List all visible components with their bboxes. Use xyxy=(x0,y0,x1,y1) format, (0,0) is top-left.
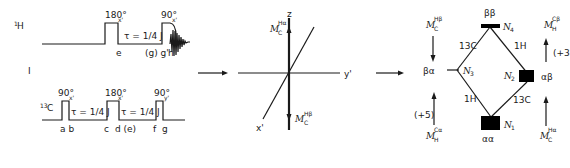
h-channel-label: H xyxy=(17,21,24,31)
svg-text:Hα: Hα xyxy=(278,19,287,26)
label-n4: N 4 xyxy=(502,22,514,33)
vector-diagram: z y' x' M C Hα M C Hβ xyxy=(238,9,352,133)
c-delay2: τ = 1/4 J xyxy=(121,107,160,117)
mag-top-right: M H Cβ (+3 xyxy=(543,15,570,62)
z-axis-label: z xyxy=(287,9,292,19)
state-ab: αβ xyxy=(541,72,553,82)
transition-label-13c-bottom: 13C xyxy=(513,95,531,105)
figure-label: I xyxy=(28,66,31,76)
svg-text:Hα: Hα xyxy=(548,126,557,133)
svg-text:(+3: (+3 xyxy=(553,48,570,58)
vector-up-label: M C Hα xyxy=(269,19,287,36)
h-pulse1-angle: 180° xyxy=(105,10,127,20)
c-pulse2-angle: 180° xyxy=(105,88,127,98)
level-n2 xyxy=(519,70,534,82)
svg-text:C: C xyxy=(434,25,438,32)
marker-g-gprime: (g) g' xyxy=(145,48,169,58)
h-delay: τ = 1/4 J xyxy=(124,31,163,41)
marker-a-b: a b xyxy=(60,124,74,134)
svg-text:C: C xyxy=(278,29,282,36)
marker-e: e xyxy=(116,48,122,58)
c-channel-label: C xyxy=(47,103,53,113)
svg-text:2: 2 xyxy=(511,75,515,82)
state-ba: βα xyxy=(423,66,435,76)
svg-text:Cβ: Cβ xyxy=(552,15,560,23)
marker-f: f xyxy=(153,124,157,134)
energy-diagram: ββ βα αβ αα N 4 N 3 N 2 N 1 13C 1H 1H 13… xyxy=(414,8,570,144)
arrow-sequence-to-vector xyxy=(198,71,228,76)
c-pulse3-phase: y' xyxy=(164,94,170,102)
c-channel: 13 C 90° x' 180° x' 90° y' τ = 1/4 J τ =… xyxy=(40,88,185,134)
svg-text:H: H xyxy=(552,25,557,32)
c-pulse1-phase: x' xyxy=(69,94,75,101)
svg-text:Cα: Cα xyxy=(434,126,442,133)
marker-d-e: d (e) xyxy=(115,124,136,134)
h-pulse2-phase: x' xyxy=(172,16,178,23)
transition-label-1h-bottom: 1H xyxy=(464,94,477,104)
transition-label-1h-top: 1H xyxy=(514,41,527,51)
transition-label-13c-top: 13C xyxy=(459,41,477,51)
mag-bottom-left: (+5) M H Cα xyxy=(414,92,442,143)
arrow-up-icon xyxy=(544,38,549,45)
level-n1 xyxy=(481,116,500,130)
marker-g: g xyxy=(162,124,168,134)
svg-text:1: 1 xyxy=(511,124,515,131)
svg-text:4: 4 xyxy=(510,26,514,33)
svg-text:Hβ: Hβ xyxy=(304,110,313,118)
state-bb: ββ xyxy=(484,8,496,18)
marker-c: c xyxy=(104,124,109,134)
c-pulse2-phase: x' xyxy=(118,94,124,101)
svg-text:C: C xyxy=(304,119,308,126)
vector-down-label: M C Hβ xyxy=(294,110,313,126)
level-n4 xyxy=(481,24,500,28)
h-pulse1-phase: x' xyxy=(118,16,124,23)
c-delay1: τ = 1/4 J xyxy=(71,107,110,117)
label-n2: N 2 xyxy=(503,71,515,82)
arrow-vector-to-energy xyxy=(376,71,404,76)
x-axis-label: x' xyxy=(256,123,264,133)
c-pulse-train xyxy=(42,101,185,120)
nmr-diagram: 1 H 180° x' 90° x' τ = 1/4 J e (g) g' h … xyxy=(0,0,570,168)
mag-bottom-right: M C Hα xyxy=(539,96,557,143)
state-aa: αα xyxy=(482,134,494,144)
vector-down-arrowhead xyxy=(287,114,292,121)
svg-text:C: C xyxy=(548,136,552,143)
mag-top-left: M C Hβ xyxy=(425,15,443,62)
arrow-down-icon xyxy=(431,55,436,62)
arrow-up-icon xyxy=(432,92,437,99)
marker-h: h xyxy=(168,48,174,58)
svg-text:(+5): (+5) xyxy=(414,110,434,120)
y-axis-label: y' xyxy=(344,69,352,79)
label-n3: N 3 xyxy=(462,66,474,77)
svg-text:3: 3 xyxy=(470,70,474,77)
label-n1: N 1 xyxy=(503,120,515,131)
vector-up-arrowhead xyxy=(287,26,292,33)
svg-text:Hβ: Hβ xyxy=(434,15,443,23)
h-channel: 1 H 180° x' 90° x' τ = 1/4 J e (g) g' h xyxy=(14,10,190,58)
svg-text:H: H xyxy=(434,136,439,143)
arrow-up-icon xyxy=(544,96,549,103)
